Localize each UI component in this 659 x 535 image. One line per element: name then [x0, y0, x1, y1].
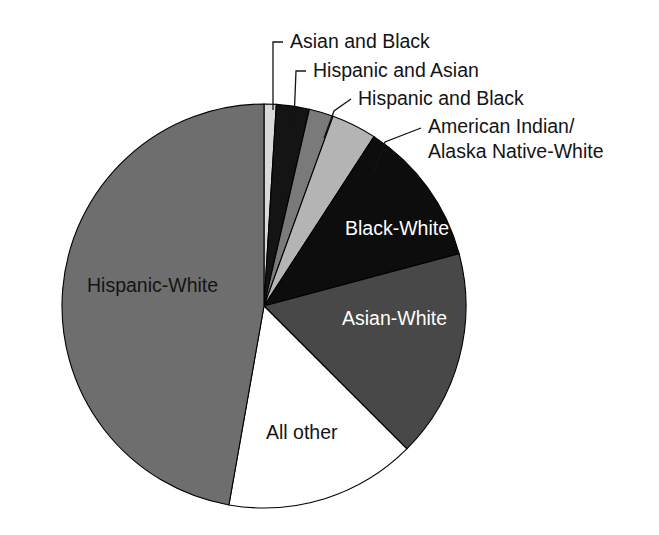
callout-label-alaska-native-white: Alaska Native-White [428, 140, 604, 162]
pie-slice-hispanic-white[interactable] [62, 104, 264, 505]
slice-label-all-other: All other [266, 421, 338, 443]
pie-chart-figure: Asian and BlackHispanic and AsianHispani… [0, 0, 659, 535]
callout-label-hispanic-and-asian: Hispanic and Asian [313, 59, 479, 81]
slice-label-hispanic-white: Hispanic-White [87, 274, 218, 296]
callout-label-american-indian: American Indian/ [428, 115, 575, 137]
slice-label-asian-white: Asian-White [342, 307, 447, 329]
slice-label-black-white: Black-White [345, 217, 449, 239]
pie-chart-svg: Asian and BlackHispanic and AsianHispani… [0, 0, 659, 535]
leader-line-asian-and-black [273, 42, 283, 110]
pie-slices-group [62, 104, 466, 508]
callout-label-hispanic-and-black: Hispanic and Black [358, 87, 524, 109]
callout-label-asian-and-black: Asian and Black [290, 30, 430, 52]
